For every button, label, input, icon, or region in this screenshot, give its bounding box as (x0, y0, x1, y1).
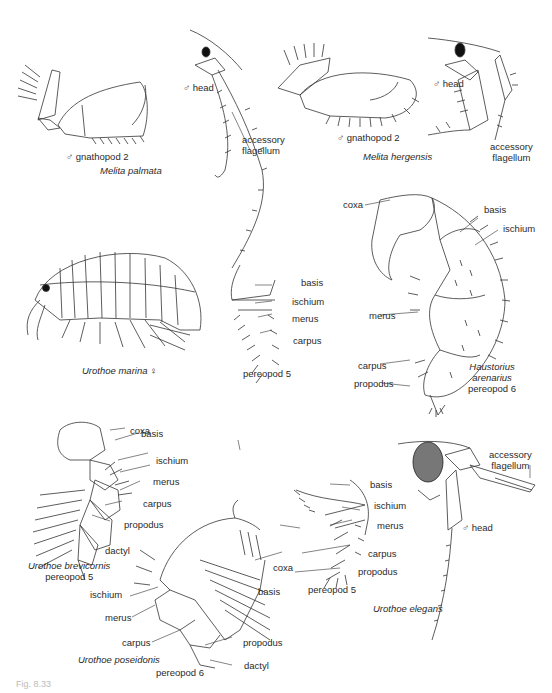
ue-propodus-label: propodus (358, 566, 398, 577)
mh-accessory-line2: flagellum (492, 152, 530, 163)
up-carpus-label: carpus (122, 637, 151, 648)
ue-merus-label: merus (377, 520, 403, 531)
urothoe-marina-drawing (27, 252, 201, 350)
p5-title-label: pereopod 5 (243, 368, 291, 379)
up-propodus-label: propodus (243, 637, 283, 648)
ub-species-label: Urothoe brevicornispereopod 5 (28, 560, 110, 582)
mh-accessory-label: accessoryflagellum (490, 141, 533, 163)
ue-ischium-label: ischium (374, 500, 406, 511)
ue-accessory-line1: accessory (489, 449, 532, 460)
melita-hergensis-gnathopod-drawing (278, 43, 419, 127)
ue-basis-label: basis (370, 479, 392, 490)
mh-gnathopod-label: ♂ gnathopod 2 (337, 132, 400, 143)
p5-ischium-label: ischium (292, 296, 324, 307)
mp-accessory-label: accessoryflagellum (242, 134, 285, 156)
ue-head-label: ♂ head (462, 522, 493, 533)
ha-species-label: Haustoriusarenariuspereopod 6 (468, 361, 516, 394)
ha-basis-label: basis (484, 204, 506, 215)
up-merus-label: merus (105, 612, 131, 623)
ub-carpus-label: carpus (143, 498, 172, 509)
up-ischium-label: ischium (90, 589, 122, 600)
ha-structure: pereopod 6 (468, 383, 516, 394)
pereopod5-drawing (231, 265, 279, 383)
ub-merus-label: merus (153, 476, 179, 487)
ha-merus-label: merus (369, 310, 395, 321)
mh-head-label: ♂ head (433, 78, 464, 89)
ub-species-name: Urothoe brevicornis (28, 560, 110, 571)
ue-accessory-line2: flagellum (491, 460, 529, 471)
label-leader-lines (92, 112, 530, 665)
mp-head-label: ♂ head (183, 82, 214, 93)
ha-genus: Haustorius (469, 361, 514, 372)
ha-coxa-label: coxa (343, 199, 363, 210)
p5-merus-label: merus (292, 313, 318, 324)
mp-gnathopod-label: ♂ gnathopod 2 (66, 151, 129, 162)
p5-basis-label: basis (301, 277, 323, 288)
urothoe-brevicornis-pereopod5-drawing (33, 422, 132, 580)
mp-accessory-line1: accessory (242, 134, 285, 145)
mp-accessory-line2: flagellum (242, 145, 280, 156)
ue-pereopod-label: pereopod 5 (308, 584, 356, 595)
up-basis-label: basis (258, 586, 280, 597)
ub-structure: pereopod 5 (45, 571, 93, 582)
ub-dactyl-label: dactyl (105, 545, 130, 556)
um-species-label: Urothoe marina ♀ (82, 365, 157, 376)
mp-species-label: Melita palmata (100, 165, 162, 176)
ha-epithet: arenarius (472, 372, 512, 383)
up-coxa-label: coxa (273, 562, 293, 573)
figure-caption: Fig. 8.33 (16, 679, 51, 689)
ue-accessory-label: accessoryflagellum (489, 449, 532, 471)
up-species-label: Urothoe poseidonis (78, 654, 160, 665)
ub-basis-label: basis (141, 428, 163, 439)
mh-species-label: Melita hergensis (363, 151, 432, 162)
ub-propodus-label: propodus (124, 519, 164, 530)
ue-carpus-label: carpus (368, 548, 397, 559)
mh-accessory-line1: accessory (490, 141, 533, 152)
up-pereopod-label: pereopod 6 (156, 667, 204, 678)
p5-carpus-label: carpus (293, 335, 322, 346)
ue-species-label: Urothoe elegans (373, 603, 443, 614)
melita-palmata-gnathopod-drawing (18, 65, 147, 144)
up-dactyl-label: dactyl (244, 660, 269, 671)
ha-propodus-label: propodus (354, 378, 394, 389)
ha-ischium-label: ischium (503, 223, 535, 234)
ub-ischium-label: ischium (156, 455, 188, 466)
melita-hergensis-head-drawing (428, 38, 518, 140)
ha-carpus-label: carpus (358, 360, 387, 371)
